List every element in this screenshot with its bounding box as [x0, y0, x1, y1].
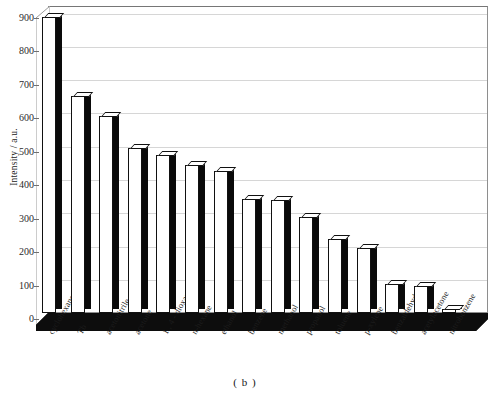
bar	[357, 248, 377, 313]
bar-chart: Intensity / a.u. 01002003004005006007008…	[0, 0, 490, 398]
bar-side-face	[256, 195, 262, 309]
bar	[385, 284, 405, 313]
bar-front-face	[214, 171, 228, 313]
bar-side-face	[142, 144, 148, 309]
bar	[299, 217, 319, 313]
bar-front-face	[385, 284, 399, 313]
bar	[242, 199, 262, 313]
bar-side-face	[199, 161, 205, 309]
bar	[99, 116, 119, 313]
bar	[71, 96, 91, 313]
bar	[214, 171, 234, 313]
bar-front-face	[242, 199, 256, 313]
bar	[328, 239, 348, 313]
bar-front-face	[42, 17, 56, 313]
bar-front-face	[99, 116, 113, 313]
bar-side-face	[285, 196, 291, 309]
bar-front-face	[71, 96, 85, 313]
bar-front-face	[156, 155, 170, 313]
bar-front-face	[299, 217, 313, 313]
bar-side-face	[113, 112, 119, 309]
bar	[185, 165, 205, 313]
bar-side-face	[371, 244, 377, 309]
bar-front-face	[128, 148, 142, 313]
bar-side-face	[313, 213, 319, 309]
x-tick-label: Tb	[75, 323, 89, 336]
bar	[128, 148, 148, 313]
bar	[414, 286, 434, 313]
bar-front-face	[328, 239, 342, 313]
bar-front-face	[185, 165, 199, 313]
bar	[271, 200, 291, 313]
bar	[42, 17, 62, 313]
bar-top-face	[72, 92, 93, 97]
bar-front-face	[271, 200, 285, 313]
figure-caption: ( b )	[0, 376, 490, 388]
bar	[156, 155, 176, 313]
bar-front-face	[357, 248, 371, 313]
bar-side-face	[170, 151, 176, 309]
bar-side-face	[56, 13, 62, 309]
bar-front-face	[414, 286, 428, 313]
bar-side-face	[228, 167, 234, 309]
bar-side-face	[342, 235, 348, 309]
x-tick-label: nitrobenzene	[446, 292, 477, 336]
bar-side-face	[85, 92, 91, 309]
